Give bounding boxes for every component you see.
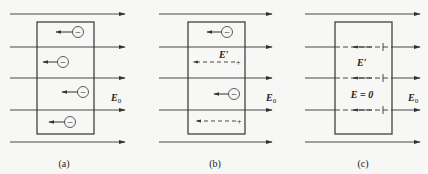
field-label-e0: E0 [265, 92, 277, 105]
electron: − [56, 27, 84, 38]
field-label-e0: E0 [110, 92, 122, 105]
induced-field-label: E′ [218, 49, 229, 60]
induced-field-line: + [196, 117, 242, 126]
charge-sign: − [75, 27, 81, 38]
induced-field-lines [335, 43, 392, 114]
charge-sign: − [80, 87, 86, 98]
caption-b: (b) [209, 158, 221, 170]
charge-sign: − [67, 117, 73, 128]
inside-field-zero-label: E = 0 [350, 89, 373, 100]
electron: − [207, 27, 233, 38]
electron: − [214, 89, 240, 100]
electron: − [49, 117, 76, 128]
field-label-e0: E0 [407, 92, 419, 105]
induced-field-line: + [193, 58, 241, 67]
caption-a: (a) [58, 158, 69, 170]
charge-sign: − [231, 89, 237, 100]
electron: − [62, 87, 89, 98]
panel-b: − + E′ − + E0 (b) [159, 14, 277, 170]
panel-a: − − − − E0 (a) [10, 14, 125, 170]
plus-sign: + [236, 58, 241, 67]
caption-c: (c) [357, 158, 368, 170]
charge-sign: − [60, 57, 66, 68]
electron: − [43, 57, 69, 68]
electrostatic-induction-diagram: − − − − E0 (a) [0, 0, 428, 174]
plus-sign: + [237, 117, 242, 126]
induced-field-label: E′ [356, 57, 367, 68]
panel-c: E′ E = 0 E0 (c) [305, 14, 420, 170]
charge-sign: − [224, 27, 230, 38]
external-field-lines [159, 14, 272, 142]
